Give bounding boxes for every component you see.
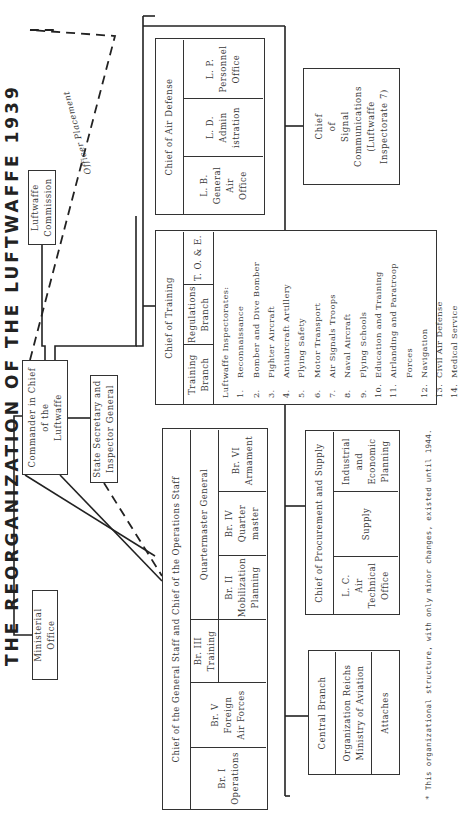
training-title: Chief of Training	[156, 232, 184, 404]
commander-in-chief-box: Commander in Chief of the Luftwaffe	[22, 360, 68, 475]
inspectorate-item: 6.Motor Transport	[310, 262, 325, 398]
inspectorate-item: 4.Antiaircraft Artillery	[279, 262, 294, 398]
branch-2-cell: Br. II Mobilization Planning	[219, 555, 266, 619]
branch-4-cell: Br. IV Quarter master	[219, 491, 266, 555]
line-trunk-top	[55, 216, 136, 360]
air-defense-cell-lp: L. P. Personnel Office	[184, 40, 263, 98]
ministerial-office-box: Ministerial Office	[32, 590, 58, 680]
line-commander-genstaff-2	[25, 475, 155, 556]
inspectorate-item: 14.Medical Service	[447, 262, 462, 398]
procurement-box: Chief of Procurement and Supply L. C. Ai…	[305, 430, 400, 615]
air-defense-title: Chief of Air Defense	[156, 40, 184, 214]
inspectorate-item: 3.Fighter Aircraft	[264, 262, 279, 398]
inspectorate-item: 5.Flying Safety	[294, 262, 309, 398]
central-branch-box: Central Branch Organization Reichs Minis…	[308, 650, 400, 775]
branch-5-cell: Br. V Foreign Air Forces	[191, 682, 266, 747]
state-secretary-box: State Secretary and Inspector General	[90, 375, 118, 483]
air-defense-cell-lb: L. B. General Air Office	[184, 156, 263, 214]
regulations-branch-cell: Regulations Branch	[184, 284, 214, 344]
inspectorate-item: 11.Airlanding and Paratroop Forces	[386, 262, 417, 398]
air-defense-box: Chief of Air Defense L. B. General Air O…	[155, 38, 265, 215]
general-staff-box: Chief of the General Staff and Chief of …	[162, 428, 268, 810]
training-box: Chief of Training Training Branch Regula…	[155, 230, 437, 405]
inspectorate-item: 9.Flying Schools	[356, 262, 371, 398]
inspectorate-item: 1.Reconnaissance	[233, 262, 248, 398]
branch-6-cell: Br. VI Armament	[219, 430, 266, 491]
inspectorate-item: 2.Bomber and Dive Bomber	[249, 262, 264, 398]
toe-cell: T. O. & E.	[184, 232, 214, 284]
general-staff-title: Chief of the General Staff and Chief of …	[163, 430, 191, 809]
supply-cell: Supply	[334, 491, 398, 556]
inspectorates-list: Luftwaffe Inspectorates: 1.Reconnaissanc…	[218, 262, 462, 398]
branch-3-spacer	[219, 619, 266, 682]
air-defense-cell-ld: L. D. Admin istration	[184, 98, 263, 156]
luftwaffe-commission-box: Luftwaffe Commission	[28, 170, 56, 245]
quartermaster-title: Quartermaster General	[191, 430, 219, 619]
air-technical-office-cell: L. C. Air Technical Office	[334, 556, 398, 614]
inspectorate-item: 7.Air Signals Troops	[325, 262, 340, 398]
inspectorate-item: 8.Naval Aircraft	[340, 262, 355, 398]
signal-communications-box: Chief of Signal Communications (Luftwaff…	[303, 68, 400, 185]
footnote: * This organizational structure, with on…	[424, 429, 433, 800]
inspectorate-item: 12.Navigation	[417, 262, 432, 398]
inspectorate-item: 10.Education and Training	[371, 262, 386, 398]
organization-row: Organization Reichs Ministry of Aviation	[336, 652, 372, 774]
training-branch-cell: Training Branch	[184, 344, 214, 404]
org-chart: THE REORGANIZATION OF THE LUFTWAFFE 1939	[0, 0, 462, 816]
procurement-title: Chief of Procurement and Supply	[306, 432, 334, 614]
economic-planning-cell: Industrial and Economic Planning	[334, 432, 398, 491]
branch-1-cell: Br. I Operations	[191, 747, 266, 809]
inspectorate-item: 13.Civil Air Defense	[432, 262, 447, 398]
attaches-row: Attaches	[372, 652, 398, 774]
branch-3-cell: Br. III Training	[191, 619, 219, 682]
inspectorates-heading: Luftwaffe Inspectorates:	[218, 262, 233, 398]
central-branch-title: Central Branch	[309, 652, 336, 774]
